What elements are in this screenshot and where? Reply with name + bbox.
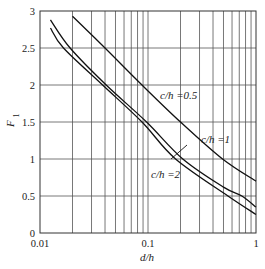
y-tick-label: 3 bbox=[30, 6, 35, 17]
y-tick-label: 2.5 bbox=[22, 43, 35, 54]
curves bbox=[50, 16, 256, 214]
annotation-ch-0.5: c/h =0.5 bbox=[160, 89, 198, 101]
y-tick-label: 1 bbox=[30, 154, 35, 165]
y-tick-labels: 00.511.522.53 bbox=[22, 6, 35, 239]
curve-series-2 bbox=[50, 28, 256, 214]
chart: 00.511.522.53 0.010.11 c/h =0.5 c/h =1 c… bbox=[0, 0, 265, 269]
y-axis-label: F 1 bbox=[4, 114, 21, 128]
x-tick-label: 0.01 bbox=[31, 238, 49, 249]
annotation-ch-1: c/h =1 bbox=[201, 133, 230, 145]
y-tick-label: 2 bbox=[30, 80, 35, 91]
x-tick-label: 1 bbox=[253, 238, 258, 249]
x-tick-labels: 0.010.11 bbox=[31, 238, 259, 249]
y-axis-label-subscript: 1 bbox=[12, 114, 21, 118]
annotation-ch-2: c/h =2 bbox=[151, 168, 181, 180]
y-axis-label-text: F bbox=[4, 120, 16, 128]
leader-line bbox=[171, 145, 187, 159]
y-tick-label: 1.5 bbox=[22, 117, 35, 128]
x-axis-label: d/h bbox=[140, 251, 155, 263]
y-tick-label: 0.5 bbox=[22, 191, 35, 202]
x-tick-label: 0.1 bbox=[141, 238, 154, 249]
